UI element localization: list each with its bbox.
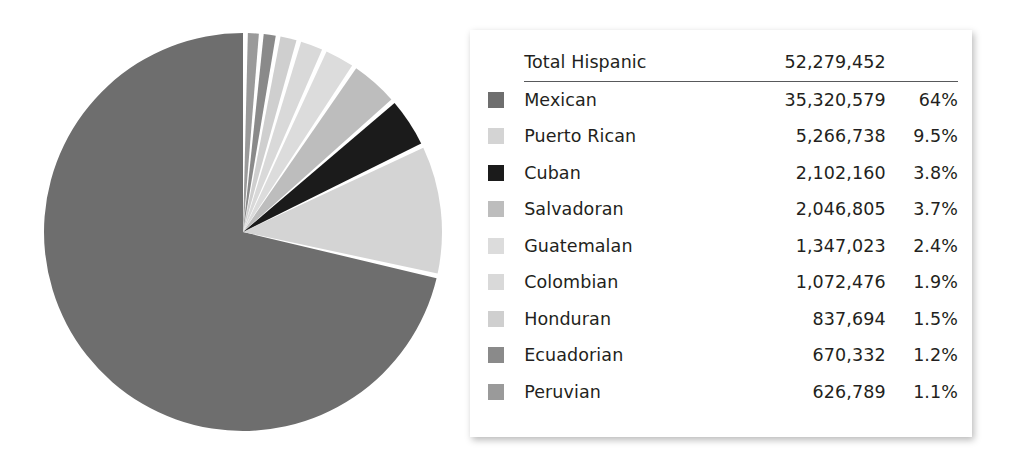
legend-swatch-cell [488,374,524,411]
legend-row: Colombian1,072,4761.9% [488,264,958,301]
legend-row-percent: 64% [886,81,958,118]
legend-color-swatch-icon [488,384,504,400]
legend-row-label: Guatemalan [524,228,735,265]
legend-swatch-cell [488,191,524,228]
legend-row: Guatemalan1,347,0232.4% [488,228,958,265]
legend-table-body: Total Hispanic 52,279,452 Mexican35,320,… [488,44,958,410]
legend-color-swatch-icon [488,238,504,254]
legend-row: Ecuadorian670,3321.2% [488,337,958,374]
legend-row: Peruvian626,7891.1% [488,374,958,411]
legend-total-swatch-cell [488,44,524,81]
legend-color-swatch-icon [488,128,504,144]
legend-row: Cuban2,102,1603.8% [488,155,958,192]
legend-swatch-cell [488,155,524,192]
legend-row-percent: 9.5% [886,118,958,155]
legend-row: Honduran837,6941.5% [488,301,958,338]
legend-row: Puerto Rican5,266,7389.5% [488,118,958,155]
legend-row-value: 626,789 [735,374,886,411]
legend-row-label: Honduran [524,301,735,338]
legend-row-percent: 1.2% [886,337,958,374]
legend-total-percent [886,44,958,81]
legend-color-swatch-icon [488,165,504,181]
legend-row-label: Salvadoran [524,191,735,228]
legend-row-label: Colombian [524,264,735,301]
legend-row-value: 1,072,476 [735,264,886,301]
legend-row-value: 2,046,805 [735,191,886,228]
legend-swatch-cell [488,118,524,155]
legend-total-label: Total Hispanic [524,44,735,81]
legend-row-label: Ecuadorian [524,337,735,374]
legend-row-label: Peruvian [524,374,735,411]
legend-row-value: 1,347,023 [735,228,886,265]
legend-row-label: Puerto Rican [524,118,735,155]
legend-row-percent: 3.7% [886,191,958,228]
legend-row-value: 35,320,579 [735,81,886,118]
pie-chart-svg [43,32,443,432]
legend-swatch-cell [488,81,524,118]
legend-color-swatch-icon [488,201,504,217]
legend-card: Total Hispanic 52,279,452 Mexican35,320,… [470,30,972,437]
legend-table: Total Hispanic 52,279,452 Mexican35,320,… [488,44,958,410]
legend-row-label: Cuban [524,155,735,192]
legend-row-percent: 3.8% [886,155,958,192]
pie-chart [43,32,443,432]
legend-row: Salvadoran2,046,8053.7% [488,191,958,228]
legend-row: Mexican35,320,57964% [488,81,958,118]
legend-swatch-cell [488,228,524,265]
legend-row-value: 5,266,738 [735,118,886,155]
chart-page: Total Hispanic 52,279,452 Mexican35,320,… [0,0,1014,466]
legend-row-value: 2,102,160 [735,155,886,192]
legend-row-percent: 2.4% [886,228,958,265]
legend-row-value: 670,332 [735,337,886,374]
legend-row-value: 837,694 [735,301,886,338]
legend-color-swatch-icon [488,311,504,327]
legend-row-percent: 1.5% [886,301,958,338]
legend-row-percent: 1.9% [886,264,958,301]
legend-row-label: Mexican [524,81,735,118]
legend-color-swatch-icon [488,92,504,108]
legend-color-swatch-icon [488,274,504,290]
legend-swatch-cell [488,337,524,374]
legend-swatch-cell [488,264,524,301]
legend-color-swatch-icon [488,347,504,363]
legend-total-row: Total Hispanic 52,279,452 [488,44,958,81]
legend-swatch-cell [488,301,524,338]
legend-row-percent: 1.1% [886,374,958,411]
legend-total-value: 52,279,452 [735,44,886,81]
